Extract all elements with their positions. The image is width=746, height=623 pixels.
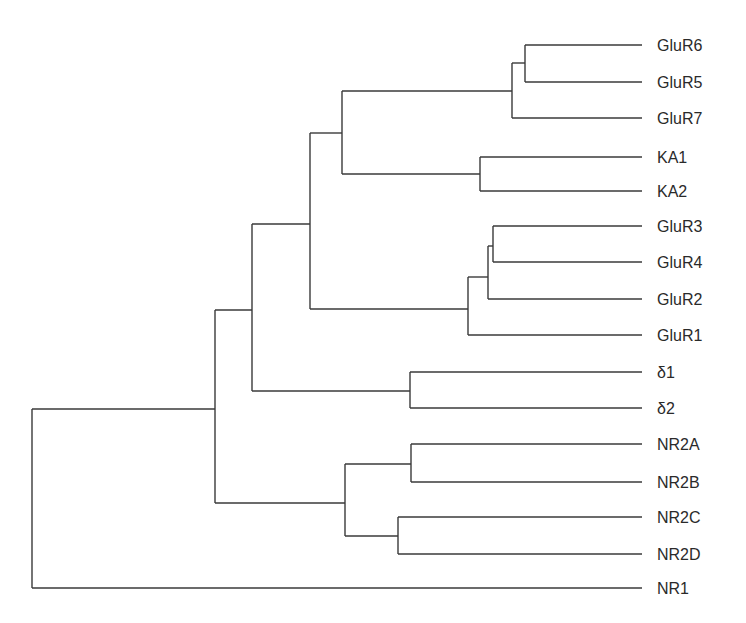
leaf-label-glur7: GluR7 [657,110,702,127]
leaf-label-delta2: δ2 [657,400,675,417]
leaf-label-glur3: GluR3 [657,218,702,235]
leaf-label-ka1: KA1 [657,149,687,166]
leaf-label-glur1: GluR1 [657,327,702,344]
leaf-label-nr2c: NR2C [657,509,701,526]
leaf-label-glur5: GluR5 [657,74,702,91]
leaf-labels: GluR6 GluR5 GluR7 KA1 KA2 GluR3 GluR4 Gl… [657,37,702,597]
leaf-label-nr2d: NR2D [657,546,701,563]
dendrogram-edges [32,45,642,588]
leaf-label-delta1: δ1 [657,364,675,381]
leaf-label-glur2: GluR2 [657,291,702,308]
leaf-label-glur4: GluR4 [657,254,702,271]
leaf-label-ka2: KA2 [657,183,687,200]
dendrogram: GluR6 GluR5 GluR7 KA1 KA2 GluR3 GluR4 Gl… [0,0,746,623]
leaf-label-nr1: NR1 [657,580,689,597]
leaf-label-nr2a: NR2A [657,436,700,453]
leaf-label-glur6: GluR6 [657,37,702,54]
leaf-label-nr2b: NR2B [657,474,700,491]
